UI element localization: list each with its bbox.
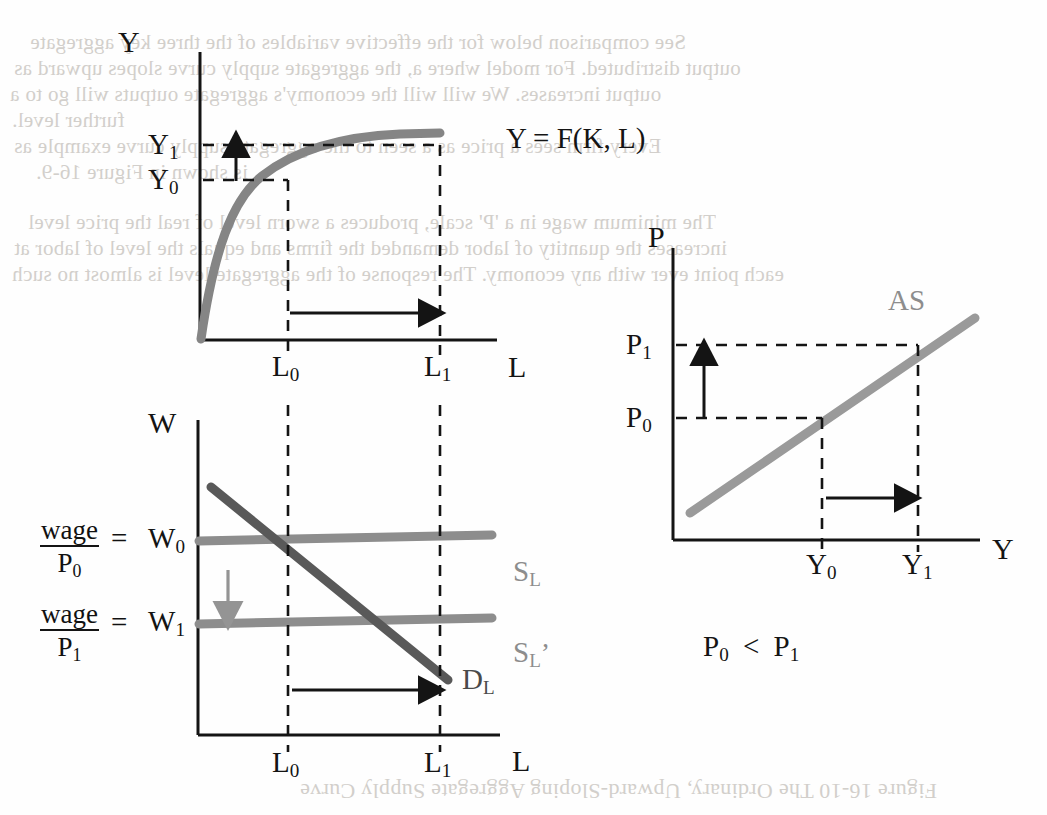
price-level-comparison-note: P0 < P1 [703,632,799,664]
as-ytick-p0: P0 [626,403,652,435]
real-wage-ratio-0: wage P0 [40,516,99,581]
production-xtick-l1: L1 [424,352,451,384]
chart-production-function [200,52,497,355]
production-ytick-y0: Y0 [148,165,179,197]
as-xtick-y0: Y0 [806,550,837,582]
labor-y-axis-label: W [148,408,176,438]
figure-page: See comparison below for the effective v… [0,0,1047,815]
chart-aggregate-supply [673,248,980,552]
real-wage-equals-0: = [111,522,127,555]
production-function-curve-label: Y = F(K, L) [506,124,645,153]
real-wage-numerator-1: wage [40,600,99,631]
labor-supply-shifted-curve-label: SL’ [513,638,550,670]
labor-x-axis-label: L [512,746,530,776]
as-x-axis-label: Y [992,534,1014,564]
real-wage-ratio-1: wage P1 [40,600,99,665]
production-ytick-y1: Y1 [148,130,179,162]
as-y-axis-label: P [648,222,665,252]
production-xtick-l0: L0 [272,352,299,384]
as-ytick-p1: P1 [626,330,652,362]
real-wage-numerator-0: wage [40,516,99,547]
as-curve-label: AS [888,286,925,315]
labor-xtick-l0: L0 [272,748,299,780]
production-y-axis-label: Y [118,27,140,57]
labor-ytick-w1: W1 [148,607,185,639]
real-wage-denominator-1: P1 [40,631,99,665]
as-xtick-y1: Y1 [902,550,933,582]
labor-ytick-w0: W0 [148,524,185,556]
real-wage-equals-1: = [111,606,127,639]
real-wage-denominator-0: P0 [40,547,99,581]
labor-supply-curve-label: SL [513,557,541,589]
production-x-axis-label: L [508,352,526,382]
labor-demand-curve-label: DL [462,665,495,697]
chart-labor-market [198,405,500,752]
labor-xtick-l1: L1 [424,748,451,780]
